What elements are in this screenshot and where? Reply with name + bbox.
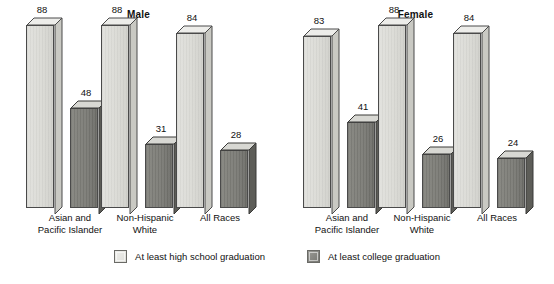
bar-front-face — [176, 33, 204, 208]
bar-front-face — [101, 25, 129, 208]
bar-female-all-races-high-school[interactable]: 84 — [453, 33, 481, 208]
panel-female: Female 83 41 — [277, 0, 554, 248]
value-label-female-asian-high-school: 83 — [297, 15, 341, 26]
bar-front-face — [378, 25, 406, 208]
bar-male-asian-high-school[interactable]: 88 — [26, 25, 54, 208]
legend-label-college: At least college graduation — [328, 251, 440, 262]
bar-front-face — [303, 36, 331, 208]
bar-male-white-high-school[interactable]: 88 — [101, 25, 129, 208]
value-label-female-all-races-college: 24 — [491, 137, 535, 148]
category-label-line2: White — [93, 224, 197, 236]
panel-male: Male 88 48 — [0, 0, 277, 248]
bar-front-face — [220, 150, 248, 208]
panel-female-plot: 83 41 Asian and Pacific Islander — [277, 0, 554, 208]
bar-group-male-all-races: 84 28 — [168, 0, 272, 208]
value-label-male-white-high-school: 88 — [95, 4, 139, 15]
value-label-male-asian-high-school: 88 — [20, 4, 64, 15]
grouped-bar-chart: Male 88 48 — [0, 0, 554, 284]
category-label-line1: All Races — [168, 212, 272, 224]
category-label-line1: All Races — [445, 212, 549, 224]
bar-male-all-races-high-school[interactable]: 84 — [176, 33, 204, 208]
bar-female-asian-high-school[interactable]: 83 — [303, 36, 331, 208]
bar-front-face — [26, 25, 54, 208]
bar-front-face — [453, 33, 481, 208]
bar-male-all-races-college[interactable]: 28 — [220, 150, 248, 208]
category-label-female-all-races: All Races — [445, 212, 549, 224]
value-label-male-all-races-college: 28 — [214, 129, 258, 140]
college-swatch-icon — [307, 250, 320, 263]
legend-item-high-school[interactable]: At least high school graduation — [114, 250, 265, 263]
chart-legend: At least high school graduation At least… — [0, 250, 554, 263]
panel-male-plot: 88 48 Asian and Pacific Islander — [0, 0, 277, 208]
legend-label-high-school: At least high school graduation — [135, 251, 265, 262]
bar-front-face — [497, 158, 525, 208]
bar-female-white-high-school[interactable]: 88 — [378, 25, 406, 208]
legend-item-college[interactable]: At least college graduation — [307, 250, 440, 263]
value-label-male-all-races-high-school: 84 — [170, 12, 214, 23]
category-label-male-all-races: All Races — [168, 212, 272, 224]
high-school-swatch-icon — [114, 250, 127, 263]
value-label-female-white-high-school: 88 — [372, 4, 416, 15]
bar-group-female-all-races: 84 24 — [445, 0, 549, 208]
category-label-line2: White — [370, 224, 474, 236]
bar-female-all-races-college[interactable]: 24 — [497, 158, 525, 208]
value-label-female-all-races-high-school: 84 — [447, 12, 491, 23]
